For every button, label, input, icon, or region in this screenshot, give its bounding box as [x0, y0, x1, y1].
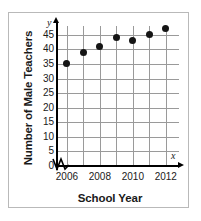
x-axis-letter: x	[171, 150, 175, 161]
gridline-horizontal	[57, 122, 179, 123]
gridline-vertical	[116, 26, 117, 166]
y-tick-label: 45	[26, 30, 54, 40]
data-point	[63, 60, 70, 67]
y-tick-label: 40	[26, 44, 54, 54]
y-tick-label: 10	[26, 132, 54, 142]
gridline-horizontal	[57, 93, 179, 94]
chart-figure: Number of Male Teachers School Year 0510…	[0, 0, 201, 221]
data-point	[129, 37, 136, 44]
y-tick-label: 5	[26, 146, 54, 156]
x-tick-label: 2012	[146, 172, 186, 182]
gridline-horizontal	[57, 64, 179, 65]
gridline-horizontal	[57, 108, 179, 109]
gridline-horizontal	[57, 137, 179, 138]
y-axis-line	[56, 22, 58, 170]
y-tick-label: 20	[26, 103, 54, 113]
data-point	[146, 31, 153, 38]
y-tick-label: 0	[26, 161, 54, 171]
x-axis-tick-labels: 2006200820102012	[0, 172, 201, 186]
gridline-vertical	[149, 26, 150, 166]
gridline-vertical	[83, 26, 84, 166]
axis-break-icon	[52, 157, 74, 173]
plot-area	[57, 26, 179, 166]
data-point	[162, 25, 169, 32]
y-tick-label: 15	[26, 117, 54, 127]
y-tick-label: 25	[26, 88, 54, 98]
x-axis-arrow-icon	[178, 162, 184, 168]
y-tick-label: 35	[26, 59, 54, 69]
y-axis-tick-labels: 051015202530354045	[22, 0, 54, 221]
gridline-vertical	[133, 26, 134, 166]
x-axis-line	[57, 165, 179, 167]
x-axis-title: School Year	[40, 192, 180, 204]
gridline-vertical	[67, 26, 68, 166]
y-axis-letter: y	[47, 17, 51, 28]
gridline-horizontal	[57, 151, 179, 152]
gridline-vertical	[166, 26, 167, 166]
gridline-horizontal	[57, 49, 179, 50]
y-tick-label: 30	[26, 74, 54, 84]
data-point	[80, 49, 87, 56]
y-axis-arrow-icon	[53, 17, 59, 23]
gridline-horizontal	[57, 79, 179, 80]
data-point	[113, 34, 120, 41]
